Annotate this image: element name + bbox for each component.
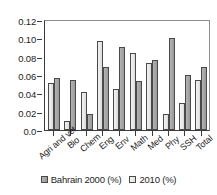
light-gray-swatch-icon xyxy=(129,176,136,183)
x-tick-mark xyxy=(168,131,169,136)
bar xyxy=(119,47,125,130)
bar-group xyxy=(95,20,111,130)
bar-group xyxy=(177,20,193,130)
y-tick-mark xyxy=(37,39,42,40)
legend-item[interactable]: Bahrain 2000 (%) xyxy=(41,174,122,185)
x-tick-mark xyxy=(119,131,120,136)
bar xyxy=(185,75,191,130)
y-tick-label: 0.10 xyxy=(18,35,36,44)
x-tick-mark xyxy=(53,131,54,136)
dark-gray-swatch-icon xyxy=(41,176,48,183)
x-tick-label: Total xyxy=(194,133,214,152)
y-tick-mark xyxy=(37,113,42,114)
bar-group xyxy=(128,20,144,130)
y-axis: 0.120.100.080.060.040.020.0 xyxy=(0,14,42,138)
y-tick-mark xyxy=(37,58,42,59)
bar xyxy=(54,78,60,130)
bar-group xyxy=(62,20,78,130)
x-tick-mark xyxy=(152,131,153,136)
legend-label: Bahrain 2000 (%) xyxy=(51,174,122,185)
bar-group xyxy=(160,20,176,130)
bar-group xyxy=(193,20,209,130)
y-tick-label: 0.12 xyxy=(18,17,36,26)
bar xyxy=(136,81,142,130)
y-tick-mark xyxy=(37,21,42,22)
bar xyxy=(201,67,207,130)
bar xyxy=(103,67,109,130)
bar xyxy=(152,60,158,130)
x-tick-mark xyxy=(86,131,87,136)
bars-layer xyxy=(46,20,210,130)
bar-chart: 0.120.100.080.060.040.020.0 Agri and vet… xyxy=(0,0,217,195)
chart-legend: Bahrain 2000 (%)2010 (%) xyxy=(0,174,217,185)
x-tick-mark xyxy=(184,131,185,136)
legend-item[interactable]: 2010 (%) xyxy=(129,174,176,185)
legend-label: 2010 (%) xyxy=(139,174,176,185)
bar-group xyxy=(144,20,160,130)
x-tick-mark xyxy=(135,131,136,136)
y-tick-label: 0.0 xyxy=(23,127,36,136)
y-tick-label: 0.06 xyxy=(18,72,36,81)
bar xyxy=(87,114,93,130)
y-tick-mark xyxy=(37,131,42,132)
y-tick-label: 0.08 xyxy=(18,53,36,62)
y-tick-mark xyxy=(37,94,42,95)
bar-group xyxy=(78,20,94,130)
y-tick-label: 0.02 xyxy=(18,108,36,117)
bar-group xyxy=(111,20,127,130)
y-tick-mark xyxy=(37,76,42,77)
y-tick-label: 0.04 xyxy=(18,90,36,99)
x-tick-mark xyxy=(102,131,103,136)
bar-group xyxy=(46,20,62,130)
bar xyxy=(70,80,76,130)
x-tick-mark xyxy=(201,131,202,136)
bar xyxy=(169,38,175,130)
